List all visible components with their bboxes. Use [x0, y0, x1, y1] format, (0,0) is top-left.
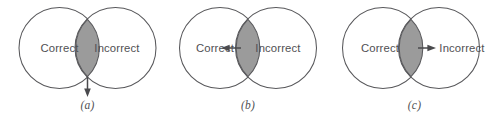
- venn-panel-c: Correct Incorrect (c): [330, 0, 499, 126]
- venn-panel-a: Correct Incorrect (a): [0, 0, 175, 126]
- incorrect-label: Incorrect: [439, 42, 485, 54]
- incorrect-label: Incorrect: [255, 42, 301, 54]
- panel-caption-b: (b): [168, 99, 328, 111]
- correct-label: Correct: [40, 42, 79, 54]
- incorrect-label: Incorrect: [94, 42, 140, 54]
- panel-caption-a: (a): [0, 99, 175, 111]
- venn-panel-b: Correct Incorrect (b): [168, 0, 328, 126]
- panel-caption-c: (c): [330, 99, 499, 111]
- venn-diagram-figure: Correct Incorrect (a) Correct Incorrect …: [0, 0, 499, 126]
- correct-label: Correct: [361, 42, 400, 54]
- correct-label: Correct: [196, 42, 235, 54]
